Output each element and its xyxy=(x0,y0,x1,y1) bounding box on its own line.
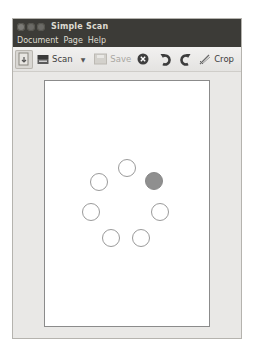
maximize-window-button[interactable] xyxy=(37,23,45,31)
spinner-dot xyxy=(82,203,100,221)
window-title: Simple Scan xyxy=(51,22,108,31)
title-bar: Simple Scan xyxy=(13,19,241,34)
minimize-window-button[interactable] xyxy=(27,23,35,31)
rotate-right-icon xyxy=(180,53,191,66)
menu-bar: Document Page Help xyxy=(13,34,241,47)
rotate-left-button[interactable] xyxy=(160,49,171,69)
toolbar: Scan ▼ Save xyxy=(13,47,241,72)
scanner-icon xyxy=(37,54,49,65)
crop-button[interactable]: Crop xyxy=(199,49,234,69)
close-window-button[interactable] xyxy=(17,23,25,31)
save-icon xyxy=(94,53,107,65)
save-button[interactable]: Save xyxy=(94,49,131,69)
spinner-dot xyxy=(132,229,150,247)
spinner-dot-active xyxy=(145,172,163,190)
preview-area xyxy=(13,72,241,338)
scan-button[interactable]: Scan xyxy=(37,49,73,69)
menu-page[interactable]: Page xyxy=(63,36,82,45)
scan-label: Scan xyxy=(52,54,73,64)
spinner-dot xyxy=(90,173,108,191)
stop-icon xyxy=(137,53,149,65)
scan-dropdown-chevron-icon[interactable]: ▼ xyxy=(81,56,86,63)
spinner-dot xyxy=(118,159,136,177)
menu-document[interactable]: Document xyxy=(17,36,58,45)
save-label: Save xyxy=(110,54,131,64)
spinner-dot xyxy=(151,203,169,221)
spinner-dot xyxy=(102,229,120,247)
rotate-left-icon xyxy=(160,53,171,66)
crop-label: Crop xyxy=(214,54,234,64)
stop-scan-button[interactable] xyxy=(137,49,149,69)
scan-type-toggle-button[interactable] xyxy=(15,50,33,69)
document-scanner-icon xyxy=(18,52,30,66)
scanned-page-preview[interactable] xyxy=(44,80,210,327)
crop-icon xyxy=(199,53,211,65)
app-window: Simple Scan Document Page Help Scan ▼ xyxy=(13,19,241,338)
menu-help[interactable]: Help xyxy=(88,36,106,45)
rotate-right-button[interactable] xyxy=(180,49,191,69)
